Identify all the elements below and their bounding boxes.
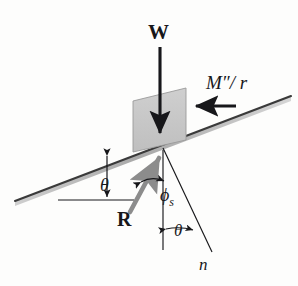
reaction-force-label: R bbox=[117, 209, 131, 229]
applied-moment-label: M″/ r bbox=[206, 73, 247, 92]
normal-line-label: n bbox=[199, 256, 208, 273]
normal-angle-label: θ bbox=[174, 222, 182, 239]
friction-angle-subscript: s bbox=[169, 195, 174, 209]
friction-angle-symbol: ϕ bbox=[160, 185, 169, 205]
weight-label: W bbox=[148, 22, 170, 43]
incline-angle-label: θ bbox=[100, 176, 109, 194]
reaction-force-arrow bbox=[130, 158, 159, 212]
physics-diagram-figure: W M″/ r θ R ϕs θ n bbox=[0, 0, 298, 286]
friction-angle-label: ϕs bbox=[160, 186, 174, 208]
